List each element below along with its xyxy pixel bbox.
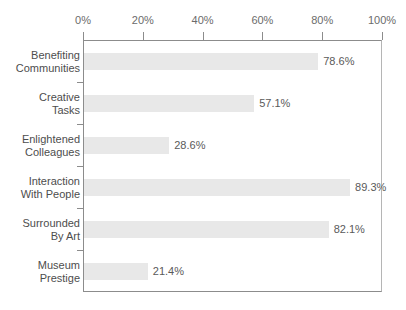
x-tick-label: 80% <box>311 14 333 26</box>
bar-value-label: 78.6% <box>323 55 354 67</box>
bar-creative-tasks <box>84 95 254 112</box>
category-label-line: Benefiting <box>16 49 80 62</box>
y-tick-mark <box>77 166 83 167</box>
plot-area <box>83 40 382 292</box>
x-tick-label: 40% <box>192 14 214 26</box>
category-label-enlightened-colleagues: Enlightened Colleagues <box>22 133 80 158</box>
category-label-line: Surrounded <box>23 217 81 230</box>
bar-enlightened-colleagues <box>84 137 169 154</box>
category-label-line: Colleagues <box>22 146 80 159</box>
category-label-line: Museum <box>38 259 80 272</box>
bar-value-label: 89.3% <box>355 181 386 193</box>
category-label-creative-tasks: Creative Tasks <box>39 91 80 116</box>
category-label-line: Tasks <box>39 104 80 117</box>
bar-value-label: 82.1% <box>334 223 365 235</box>
x-tick-mark <box>322 32 323 40</box>
category-label-line: Prestige <box>38 272 80 285</box>
x-tick-label: 0% <box>75 14 91 26</box>
category-label-benefiting-communities: Benefiting Communities <box>16 49 80 74</box>
category-label-line: By Art <box>23 230 81 243</box>
bar-value-label: 28.6% <box>174 139 205 151</box>
category-label-line: Enlightened <box>22 133 80 146</box>
category-label-museum-prestige: Museum Prestige <box>38 259 80 284</box>
category-label-surrounded-by-art: Surrounded By Art <box>23 217 81 242</box>
y-tick-mark <box>77 82 83 83</box>
bar-museum-prestige <box>84 263 148 280</box>
y-tick-mark <box>77 124 83 125</box>
horizontal-bar-chart: 0% 20% 40% 60% 80% 100% Benefiting Commu… <box>0 0 406 310</box>
bar-surrounded-by-art <box>84 221 329 238</box>
bar-value-label: 21.4% <box>153 265 184 277</box>
x-tick-mark <box>382 32 383 40</box>
x-tick-mark <box>83 32 84 40</box>
category-label-line: Creative <box>39 91 80 104</box>
x-tick-mark <box>203 32 204 40</box>
x-tick-label: 60% <box>251 14 273 26</box>
x-tick-mark <box>262 32 263 40</box>
y-tick-mark <box>77 208 83 209</box>
x-tick-mark <box>143 32 144 40</box>
bar-interaction-with-people <box>84 179 350 196</box>
y-tick-mark <box>77 250 83 251</box>
x-tick-label: 20% <box>132 14 154 26</box>
bar-benefiting-communities <box>84 53 318 70</box>
category-label-line: Interaction <box>21 175 80 188</box>
x-tick-label: 100% <box>368 14 396 26</box>
category-label-line: With People <box>21 188 80 201</box>
bar-value-label: 57.1% <box>259 97 290 109</box>
category-label-interaction-with-people: Interaction With People <box>21 175 80 200</box>
category-label-line: Communities <box>16 62 80 75</box>
